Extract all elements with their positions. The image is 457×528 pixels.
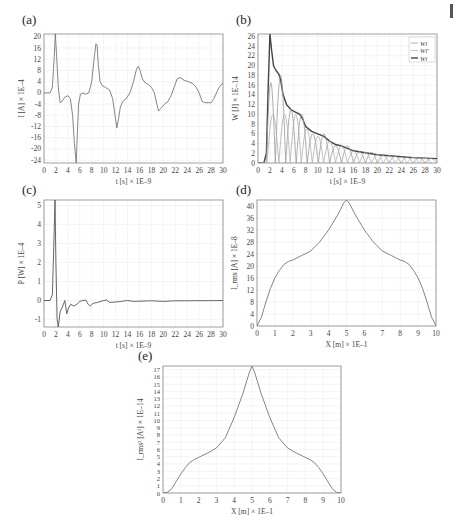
x-tick-label: 0	[161, 496, 165, 505]
y-tick-label: -4	[35, 100, 41, 109]
y-tick-label: 4	[250, 310, 254, 319]
x-tick-label: 0	[256, 166, 260, 175]
x-tick-label: 18	[148, 166, 156, 175]
x-tick-label: 18	[148, 330, 156, 339]
y-tick-label: 0	[250, 322, 254, 331]
y-tick-label: 20	[34, 32, 42, 41]
y-tick-label: 5	[157, 453, 160, 460]
y-tick-label: 7	[157, 439, 161, 446]
y-tick-label: 0	[37, 296, 41, 305]
chart-c: 024681012141618202224262830-1012345t [s]…	[17, 200, 227, 350]
y-tick-label: 26	[248, 32, 256, 41]
y-tick-label: 2	[37, 258, 41, 267]
y-tick-label: 16	[34, 44, 42, 53]
x-tick-label: 2	[54, 330, 58, 339]
x-tick-label: 24	[397, 166, 405, 175]
x-tick-label: 8	[304, 166, 308, 175]
y-axis-label: I_rms [A] × 1E–8	[230, 236, 239, 290]
x-tick-label: 4	[66, 330, 70, 339]
y-tick-label: 6	[157, 446, 161, 453]
y-tick-label: 28	[247, 238, 255, 247]
y-tick-label: 16	[248, 81, 256, 90]
y-axis-label: I_rms² [A²] × 1E–14	[136, 398, 145, 460]
y-tick-label: 24	[247, 250, 255, 259]
y-tick-label: -24	[31, 156, 41, 165]
x-tick-label: 9	[416, 329, 420, 338]
x-axis-label: t [s] × 1E–9	[116, 341, 152, 350]
x-tick-label: 26	[195, 166, 203, 175]
y-tick-label: 8	[251, 120, 255, 129]
x-tick-label: 2	[268, 166, 272, 175]
y-tick-label: 14	[154, 388, 161, 395]
x-tick-label: 10	[100, 330, 108, 339]
x-axis-label: t [s] × 1E–9	[330, 177, 366, 186]
x-tick-label: 20	[374, 166, 382, 175]
y-tick-label: 8	[157, 431, 160, 438]
x-tick-label: 26	[409, 166, 417, 175]
y-tick-label: 2	[157, 475, 160, 482]
x-tick-label: 28	[421, 166, 429, 175]
x-tick-label: 6	[78, 166, 82, 175]
x-tick-label: 18	[362, 166, 370, 175]
x-tick-label: 12	[112, 330, 120, 339]
legend-entry: Wt	[420, 55, 427, 62]
x-tick-label: 3	[309, 329, 313, 338]
series-line	[44, 34, 223, 163]
x-tick-label: 24	[183, 166, 191, 175]
x-tick-label: 6	[268, 496, 272, 505]
y-tick-label: 8	[37, 66, 41, 75]
figure-canvas: 024681012141618202224262830-24-20-16-12-…	[0, 0, 457, 528]
x-tick-label: 0	[255, 329, 259, 338]
y-tick-label: 1	[37, 277, 41, 286]
y-tick-label: 32	[247, 226, 255, 235]
x-tick-label: 22	[172, 330, 180, 339]
x-tick-label: 28	[207, 330, 215, 339]
x-tick-label: 6	[292, 166, 296, 175]
y-axis-label: P [W] × 1E–4	[17, 242, 26, 284]
x-axis-label: X [m] × 1E–1	[326, 340, 368, 349]
y-tick-label: 12	[154, 402, 161, 409]
y-tick-label: 16	[154, 373, 161, 380]
y-tick-label: 17	[154, 366, 161, 373]
series-line	[258, 75, 437, 163]
x-tick-label: 7	[380, 329, 384, 338]
x-tick-label: 14	[124, 166, 132, 175]
x-tick-label: 20	[160, 330, 168, 339]
x-tick-label: 2	[197, 496, 201, 505]
x-tick-label: 28	[207, 166, 215, 175]
y-tick-label: 3	[157, 468, 160, 475]
y-tick-label: 10	[154, 417, 161, 424]
y-tick-label: -20	[31, 144, 41, 153]
x-tick-label: 10	[100, 166, 108, 175]
y-tick-label: 4	[37, 220, 41, 229]
y-tick-label: 11	[154, 410, 160, 417]
x-tick-label: 1	[179, 496, 183, 505]
y-tick-label: 0	[157, 490, 160, 497]
x-tick-label: 8	[304, 496, 308, 505]
legend-entry: Wl'	[420, 47, 429, 54]
x-tick-label: 4	[327, 329, 331, 338]
x-tick-label: 7	[286, 496, 290, 505]
plot-frame	[44, 200, 223, 327]
x-axis-label: t [s] × 1E–9	[116, 177, 152, 186]
y-tick-label: 12	[248, 100, 256, 109]
x-tick-label: 22	[172, 166, 180, 175]
y-axis-label: W [J] × 1E–14	[231, 76, 240, 121]
y-tick-label: 36	[247, 214, 255, 223]
x-tick-label: 14	[338, 166, 346, 175]
x-tick-label: 10	[432, 329, 440, 338]
x-tick-label: 6	[78, 330, 82, 339]
y-tick-label: 9	[157, 424, 160, 431]
x-tick-label: 16	[350, 166, 358, 175]
y-tick-label: 0	[251, 159, 255, 168]
x-tick-label: 10	[314, 166, 322, 175]
y-tick-label: 10	[248, 110, 256, 119]
y-tick-label: 20	[247, 262, 255, 271]
x-tick-label: 4	[280, 166, 284, 175]
x-tick-label: 6	[363, 329, 367, 338]
x-tick-label: 8	[90, 330, 94, 339]
x-tick-label: 24	[183, 330, 191, 339]
chart-d: 0123456789100481216202428323640X [m] × 1…	[230, 200, 440, 349]
y-tick-label: 3	[37, 239, 41, 248]
x-tick-label: 30	[433, 166, 441, 175]
